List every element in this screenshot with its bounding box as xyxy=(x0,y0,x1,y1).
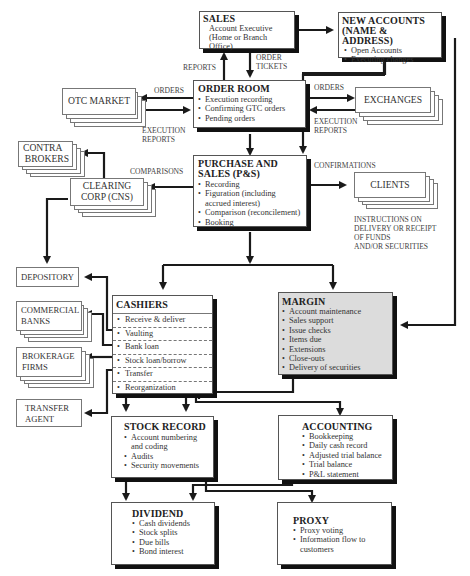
contra-brokers-node: CONTRA BROKERS xyxy=(18,141,86,179)
clearing-corp-line-2: CORP (CNS) xyxy=(71,192,143,203)
stock-record-item: Security movements xyxy=(124,461,213,470)
label-order-tickets-2: TICKETS xyxy=(256,62,287,71)
cashiers-title: CASHIERS xyxy=(113,296,212,314)
sales-title: SALES xyxy=(203,14,291,24)
purchase-sales-item-cont: accrued interest) xyxy=(198,199,302,208)
purchase-sales-item: Booking xyxy=(198,218,302,227)
exchanges-label: EXCHANGES xyxy=(364,95,422,106)
margin-item: Extensions xyxy=(282,345,389,354)
purchase-sales-item: Figuration (including xyxy=(198,189,302,198)
label-exec-reports-left-2: REPORTS xyxy=(142,135,175,144)
otc-market-node: OTC MARKET xyxy=(62,88,148,128)
accounting-item: Trial balance xyxy=(302,460,392,469)
accounting-node: ACCOUNTING Bookkeeping Daily cash record… xyxy=(278,415,393,480)
cashiers-item: Stock loan/borrow xyxy=(113,354,212,368)
order-room-item: Confirming GTC orders xyxy=(198,104,301,113)
cashiers-node: CASHIERS Receive & deliver Vaulting Bank… xyxy=(112,295,213,394)
proxy-title: PROXY xyxy=(293,516,391,526)
accounting-item: Daily cash record xyxy=(302,441,392,450)
margin-item: Close-outs xyxy=(282,354,389,363)
purchase-sales-item: Recording xyxy=(198,180,302,189)
label-orders-left: ORDERS xyxy=(154,86,184,95)
label-exec-reports-right-1: EXECUTION xyxy=(314,117,357,126)
margin-item: Delivery of securities xyxy=(282,363,389,372)
transfer-agent-line-1: TRANSFER xyxy=(25,403,81,414)
commercial-banks-line-1: COMMERCIAL xyxy=(21,305,81,316)
new-accounts-item: Executing changes xyxy=(344,55,438,64)
dividend-item: Due bills xyxy=(132,538,214,547)
stock-record-item: Account numbering xyxy=(124,433,213,442)
cashiers-item: Reorganization xyxy=(113,381,212,395)
accounting-title: ACCOUNTING xyxy=(302,422,392,432)
purchase-and-sales-node: PURCHASE AND SALES (P&S) Recording Figur… xyxy=(193,155,307,227)
stock-record-item: Audits xyxy=(124,452,213,461)
purchase-sales-title-2: SALES (P&S) xyxy=(198,169,302,179)
label-exec-reports-left-1: EXECUTION xyxy=(142,126,185,135)
margin-item: Issue checks xyxy=(282,326,389,335)
order-room-title: ORDER ROOM xyxy=(198,84,301,94)
margin-item: Sales support xyxy=(282,316,389,325)
accounting-item: Adjusted trial balance xyxy=(302,451,392,460)
dividend-item: Bond interest xyxy=(132,547,214,556)
dividend-node: DIVIDEND Cash dividends Stock splits Due… xyxy=(111,502,215,565)
proxy-item-cont: customers xyxy=(293,545,391,554)
brokerage-firms-line-1: BROKERAGE xyxy=(22,351,81,362)
clients-node: CLIENTS xyxy=(354,172,438,212)
cashiers-item: Receive & deliver xyxy=(113,314,212,327)
depository-label: DEPOSITORY xyxy=(21,272,74,283)
exchanges-node: EXCHANGES xyxy=(355,87,447,127)
order-room-item: Execution recording xyxy=(198,95,301,104)
purchase-sales-item: Comparison (reconcilement) xyxy=(198,208,302,217)
otc-market-label: OTC MARKET xyxy=(68,96,130,107)
contra-brokers-line-2: BROKERS xyxy=(19,154,72,165)
transfer-agent-node: TRANSFER AGENT xyxy=(16,399,82,427)
order-room-node: ORDER ROOM Execution recording Confirmin… xyxy=(193,80,306,128)
clearing-corp-line-1: CLEARING xyxy=(71,181,143,192)
dividend-item: Stock splits xyxy=(132,528,214,537)
dividend-item: Cash dividends xyxy=(132,519,214,528)
brokerage-firms-line-2: FIRMS xyxy=(22,362,81,373)
label-orders-right: ORDERS xyxy=(314,83,344,92)
commercial-banks-node: COMMERCIAL BANKS xyxy=(16,301,92,345)
brokerage-firms-node: BROKERAGE FIRMS xyxy=(16,347,96,391)
clients-label: CLIENTS xyxy=(370,180,409,191)
commercial-banks-line-2: BANKS xyxy=(21,316,81,327)
sales-node: SALES Account Executive (Home or Branch … xyxy=(199,11,295,49)
cashiers-item: Vaulting xyxy=(113,327,212,341)
label-confirmations: CONFIRMATIONS xyxy=(314,161,376,170)
margin-title: MARGIN xyxy=(282,297,389,307)
label-exec-reports-right-2: REPORTS xyxy=(314,126,347,135)
margin-node: MARGIN Account maintenance Sales support… xyxy=(278,292,393,375)
sales-line-1: Account Executive xyxy=(203,24,291,33)
margin-item: Items due xyxy=(282,335,389,344)
dividend-title: DIVIDEND xyxy=(132,509,214,519)
label-order-tickets-1: ORDER xyxy=(256,53,282,62)
cashiers-item: Bank loan xyxy=(113,340,212,354)
stock-record-item-cont: and coding xyxy=(124,442,213,451)
label-reports: REPORTS xyxy=(183,63,216,72)
sales-line-2: (Home or Branch Office) xyxy=(203,33,291,51)
clearing-corp-node: CLEARING CORP (CNS) xyxy=(70,178,156,218)
proxy-item: Proxy voting xyxy=(293,526,391,535)
proxy-node: PROXY Proxy voting Information flow to c… xyxy=(277,502,392,565)
securities-operations-flow-diagram: SALES Account Executive (Home or Branch … xyxy=(0,0,470,576)
depository-node: DEPOSITORY xyxy=(16,267,79,287)
accounting-item: P&L statement xyxy=(302,470,392,479)
new-accounts-title-2: (NAME & ADDRESS) xyxy=(342,26,438,46)
new-accounts-node: NEW ACCOUNTS (NAME & ADDRESS) Open Accou… xyxy=(338,12,442,58)
clients-instructions-note: INSTRUCTIONS ON DELIVERY OR RECEIPT OF F… xyxy=(354,215,436,251)
margin-item: Account maintenance xyxy=(282,307,389,316)
stock-record-title: STOCK RECORD xyxy=(124,422,213,432)
transfer-agent-line-2: AGENT xyxy=(25,414,81,425)
new-accounts-item: Open Accounts xyxy=(344,46,438,55)
order-room-item: Pending orders xyxy=(198,114,301,123)
accounting-item: Bookkeeping xyxy=(302,432,392,441)
contra-brokers-line-1: CONTRA xyxy=(19,143,72,154)
proxy-item: Information flow to xyxy=(293,535,391,544)
stock-record-node: STOCK RECORD Account numbering and codin… xyxy=(111,416,214,478)
cashiers-item: Transfer xyxy=(113,367,212,381)
label-comparisons: COMPARISONS xyxy=(130,167,183,176)
